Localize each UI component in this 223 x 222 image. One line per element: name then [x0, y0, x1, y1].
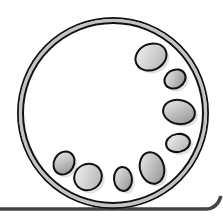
- pebbles: [49, 38, 200, 198]
- pebble-6: [113, 166, 133, 191]
- pebble-1: [131, 38, 171, 75]
- pebble-2: [161, 66, 189, 93]
- ring-pebbles-illustration: [0, 0, 223, 222]
